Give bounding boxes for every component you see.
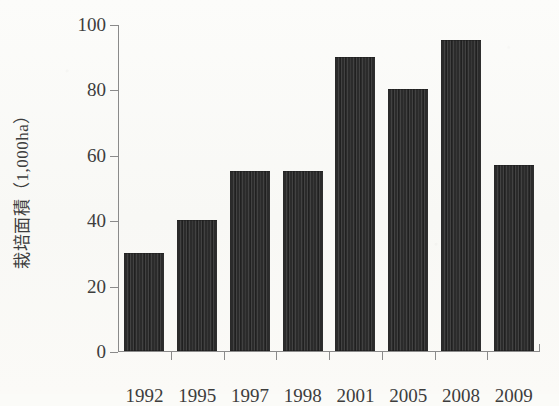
bar-slot: [329, 25, 382, 351]
bar: [230, 171, 270, 351]
x-tick-mark: [329, 352, 330, 360]
x-tick-label: 1997: [231, 385, 269, 406]
y-tick-mark: [110, 25, 118, 26]
y-axis-title: 栽培面積（1,000ha）: [8, 38, 33, 338]
bar-series: [118, 25, 540, 351]
bar-slot: [224, 25, 277, 351]
x-tick-mark: [435, 352, 436, 360]
y-tick-mark: [110, 156, 118, 157]
x-tick-mark: [224, 352, 225, 360]
bar: [388, 89, 428, 351]
x-tick-label: 1995: [178, 385, 216, 406]
bar: [335, 57, 375, 351]
x-tick-label: 1998: [284, 385, 322, 406]
y-tick-mark: [110, 287, 118, 288]
y-tick-mark: [110, 352, 118, 353]
bar: [441, 40, 481, 351]
bar: [283, 171, 323, 351]
x-tick-label: 2009: [495, 385, 533, 406]
bar: [494, 165, 534, 351]
bar: [124, 253, 164, 351]
bar: [177, 220, 217, 351]
x-tick-label: 1992: [125, 385, 163, 406]
y-tick-label: 40: [87, 210, 106, 232]
x-tick-label: 2001: [336, 385, 374, 406]
y-tick-label: 100: [78, 14, 107, 36]
bar-slot: [382, 25, 435, 351]
bar-slot: [171, 25, 224, 351]
x-tick-mark: [276, 352, 277, 360]
plot-area: 020406080100 199219951997199820012005200…: [118, 25, 540, 352]
y-tick-mark: [110, 90, 118, 91]
bar-slot: [118, 25, 171, 351]
y-tick-label: 20: [87, 276, 106, 298]
x-tick-mark: [171, 352, 172, 360]
bar-slot: [487, 25, 540, 351]
x-tick-mark: [382, 352, 383, 360]
bar-slot: [276, 25, 329, 351]
y-tick-mark: [110, 221, 118, 222]
bar-slot: [435, 25, 488, 351]
y-tick-label: 0: [97, 341, 107, 363]
y-tick-label: 60: [87, 145, 106, 167]
x-tick-label: 2005: [389, 385, 427, 406]
x-tick-mark: [487, 352, 488, 360]
y-tick-label: 80: [87, 79, 106, 101]
x-tick-label: 2008: [442, 385, 480, 406]
